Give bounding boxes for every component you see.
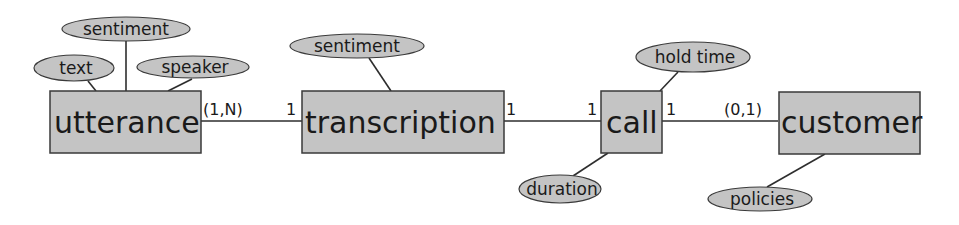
er-diagram: utterance transcription call customer se… xyxy=(0,0,959,225)
entity-label: utterance xyxy=(54,105,200,140)
attribute-utterance-text: text xyxy=(34,55,114,81)
edge-customer-policies xyxy=(767,154,825,187)
cardinality-label: 1 xyxy=(286,100,296,119)
edge-utterance-text xyxy=(88,81,96,91)
entity-call: call xyxy=(601,91,662,153)
cardinality-label: 1 xyxy=(666,100,676,119)
entity-utterance: utterance xyxy=(50,91,201,153)
entity-transcription: transcription xyxy=(302,91,504,153)
attribute-label: duration xyxy=(526,179,598,199)
attribute-label: sentiment xyxy=(314,36,400,56)
cardinality-label: (0,1) xyxy=(724,100,762,119)
attribute-label: policies xyxy=(730,189,794,209)
entity-label: call xyxy=(606,105,658,140)
attribute-call-duration: duration xyxy=(519,175,601,203)
edge-call-duration xyxy=(573,153,608,176)
attribute-utterance-sentiment: sentiment xyxy=(62,17,190,41)
attribute-transcription-sentiment: sentiment xyxy=(290,34,424,58)
cardinality-label: 1 xyxy=(506,100,516,119)
edge-utterance-speaker xyxy=(168,79,192,91)
entity-customer: customer xyxy=(779,92,923,154)
attribute-call-holdtime: hold time xyxy=(636,42,750,72)
attribute-label: speaker xyxy=(161,57,228,77)
attribute-label: text xyxy=(59,58,93,78)
attribute-label: sentiment xyxy=(83,19,169,39)
cardinality-label: 1 xyxy=(587,100,597,119)
attribute-label: hold time xyxy=(655,47,736,67)
edge-call-holdtime xyxy=(660,72,678,91)
attribute-utterance-speaker: speaker xyxy=(137,56,249,78)
entity-label: transcription xyxy=(305,105,496,140)
cardinality-label: (1,N) xyxy=(203,100,243,119)
attribute-customer-policies: policies xyxy=(708,187,812,211)
entity-label: customer xyxy=(781,105,923,140)
edge-transcription-sentiment xyxy=(369,58,391,91)
